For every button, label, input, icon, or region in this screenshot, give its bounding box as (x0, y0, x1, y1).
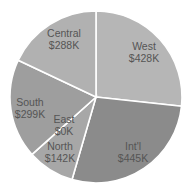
label-category: North (47, 140, 73, 152)
label-value: $142K (45, 152, 75, 164)
label-value: $288K (49, 39, 79, 51)
label-value: $0K (55, 125, 74, 137)
label-west: West$428K (129, 40, 159, 64)
label-south: South$299K (15, 96, 45, 120)
label-value: $428K (129, 52, 159, 64)
label-category: Int'l (125, 140, 141, 152)
pie-chart: West$428KInt'l$445KNorth$142KEast$0KSout… (0, 0, 192, 195)
label-value: $445K (118, 152, 148, 164)
label-central: Central$288K (47, 27, 81, 51)
label-category: Central (47, 27, 81, 39)
label-value: $299K (15, 108, 45, 120)
label-category: West (132, 40, 156, 52)
label-east: East$0K (53, 113, 74, 137)
label-category: South (16, 96, 44, 108)
label-category: East (53, 113, 74, 125)
label-north: North$142K (45, 140, 75, 164)
